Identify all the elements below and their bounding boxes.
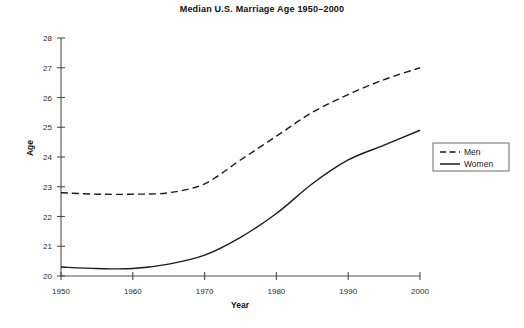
chart-figure: Median U.S. Marriage Age 1950–2000 20212… (0, 0, 524, 328)
legend-label-men: Men (464, 147, 481, 157)
x-tick-label: 1980 (268, 287, 286, 296)
x-axis: 195019601970198019902000 Year (52, 272, 429, 310)
y-tick-label: 22 (43, 213, 52, 222)
series-line-men (61, 68, 420, 195)
y-tick-label: 20 (43, 272, 52, 281)
y-tick-label: 21 (43, 242, 52, 251)
legend-label-women: Women (464, 159, 493, 169)
y-tick-label: 25 (43, 123, 52, 132)
x-tick-label: 1990 (339, 287, 357, 296)
series-group (61, 68, 420, 269)
chart-legend: MenWomen (433, 143, 509, 171)
x-tick-label: 2000 (411, 287, 429, 296)
y-axis: 202122232425262728 Age (25, 34, 65, 281)
x-axis-title: Year (231, 300, 250, 310)
y-tick-label: 24 (43, 153, 52, 162)
x-tick-label: 1960 (124, 287, 142, 296)
y-axis-title: Age (25, 140, 35, 156)
x-tick-label: 1950 (52, 287, 70, 296)
series-line-women (61, 130, 420, 269)
y-tick-group: 202122232425262728 (43, 34, 65, 281)
y-tick-label: 28 (43, 34, 52, 43)
y-tick-label: 26 (43, 94, 52, 103)
y-tick-label: 23 (43, 183, 52, 192)
x-tick-label: 1970 (196, 287, 214, 296)
y-tick-label: 27 (43, 64, 52, 73)
chart-plot-area: 202122232425262728 Age 19501960197019801… (0, 0, 524, 328)
